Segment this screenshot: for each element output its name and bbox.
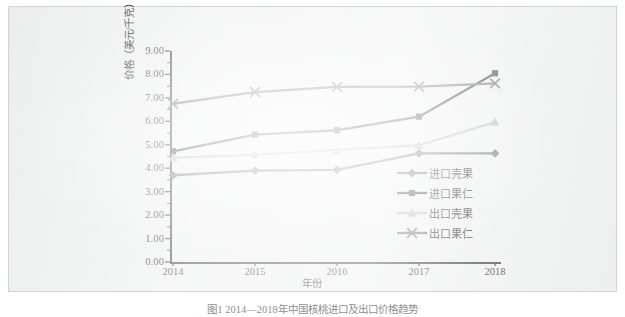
series-data-point	[491, 149, 500, 158]
series-data-point	[415, 149, 424, 158]
line-chart: 价格（美元/千克） 9.008.007.006.005.004.003.002.…	[9, 7, 618, 293]
chart-series	[168, 79, 500, 109]
legend-item-label: 出口果仁	[429, 225, 473, 241]
series-data-point	[252, 132, 258, 138]
series-data-point	[334, 127, 340, 133]
chart-figure-panel: 价格（美元/千克） 9.008.007.006.005.004.003.002.…	[8, 6, 617, 292]
chart-series	[168, 117, 499, 161]
x-axis-tick-label: 2018	[467, 267, 523, 278]
figure-root: 价格（美元/千克） 9.008.007.006.005.004.003.002.…	[0, 0, 625, 317]
series-data-point	[416, 114, 422, 120]
x-axis-title: 年份	[252, 275, 372, 290]
series-data-point	[169, 171, 178, 180]
x-axis-tick-label: 2014	[145, 267, 201, 278]
series-data-point	[251, 166, 260, 175]
legend-item-label: 进口果仁	[429, 185, 473, 201]
legend-marker-icon	[397, 167, 427, 179]
series-data-point	[490, 117, 499, 126]
legend-item-label: 进口壳果	[429, 165, 473, 181]
chart-legend: 进口壳果进口果仁出口壳果出口果仁	[397, 163, 507, 243]
x-axis-tick-label: 2017	[391, 267, 447, 278]
legend-marker-icon	[397, 227, 427, 239]
series-data-point	[492, 70, 498, 76]
series-data-point	[333, 165, 342, 174]
legend-marker-icon	[397, 187, 427, 199]
legend-marker-icon	[397, 207, 427, 219]
legend-item-label: 出口壳果	[429, 205, 473, 221]
figure-caption: 图1 2014—2018年中国核桃进口及出口价格趋势	[0, 301, 625, 317]
legend-item-2[interactable]: 进口果仁	[397, 183, 507, 203]
legend-item-4[interactable]: 出口果仁	[397, 223, 507, 243]
legend-item-3[interactable]: 出口壳果	[397, 203, 507, 223]
plot-canvas	[9, 7, 618, 293]
legend-item-1[interactable]: 进口壳果	[397, 163, 507, 183]
